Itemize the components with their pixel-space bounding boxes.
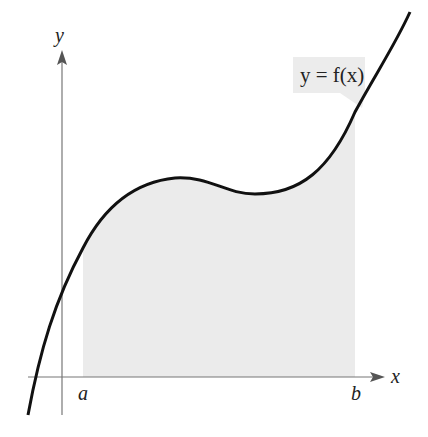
shaded-area [83, 112, 355, 377]
bound-b-label: b [351, 382, 361, 404]
function-label: y = f(x) [300, 63, 364, 87]
y-axis-label: y [53, 24, 64, 47]
bound-a-label: a [78, 382, 88, 404]
x-axis-label: x [390, 365, 400, 387]
diagram-canvas: y x a b y = f(x) [0, 0, 428, 437]
